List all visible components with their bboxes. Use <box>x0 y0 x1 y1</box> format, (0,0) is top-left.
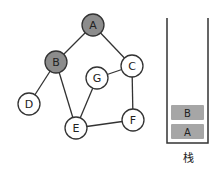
node-B: B <box>45 51 67 73</box>
stack-label: 栈 <box>178 149 198 165</box>
svg-text:E: E <box>73 122 80 135</box>
stack-item-top-label: B <box>184 108 191 119</box>
svg-text:F: F <box>130 114 136 127</box>
svg-text:A: A <box>89 19 97 32</box>
svg-text:G: G <box>93 72 102 85</box>
node-E: E <box>65 117 87 139</box>
node-D: D <box>18 93 40 115</box>
graph-diagram: ABCGDEF B A <box>0 0 221 171</box>
node-F: F <box>122 109 144 131</box>
edges <box>29 25 133 128</box>
svg-text:C: C <box>128 60 136 73</box>
svg-text:B: B <box>52 56 60 69</box>
stack-container: B A <box>167 18 208 143</box>
node-C: C <box>121 55 143 77</box>
svg-text:D: D <box>25 98 33 111</box>
nodes: ABCGDEF <box>18 14 144 139</box>
node-A: A <box>82 14 104 36</box>
stack-item-bottom-label: A <box>184 127 191 138</box>
node-G: G <box>86 67 108 89</box>
